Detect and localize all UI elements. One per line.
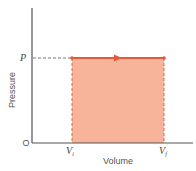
final-point: [162, 56, 166, 60]
vi-label: Vi: [66, 145, 74, 157]
p-label: P: [19, 52, 26, 63]
pv-diagram: P O Vi Vf Volume Pressure: [0, 0, 196, 171]
initial-point: [70, 56, 74, 60]
x-axis-label: Volume: [103, 156, 133, 166]
vf-label: Vf: [159, 145, 168, 157]
work-area: [72, 58, 164, 143]
y-axis-label: Pressure: [7, 72, 17, 108]
origin-label: O: [22, 138, 29, 148]
